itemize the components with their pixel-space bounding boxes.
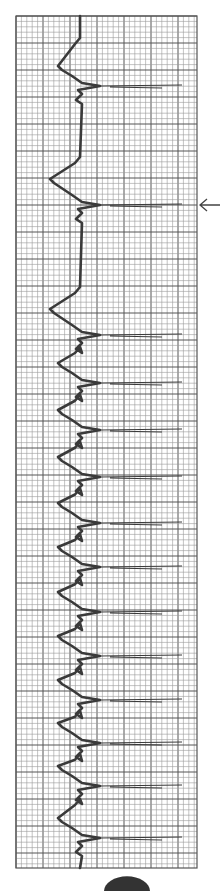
qrs-spikes	[100, 85, 182, 840]
ecg-grid	[16, 16, 197, 868]
ecg-strip	[0, 0, 222, 891]
arrow-left-icon	[200, 199, 220, 211]
page-marker-circle	[104, 876, 150, 891]
ecg-trace	[50, 16, 100, 868]
